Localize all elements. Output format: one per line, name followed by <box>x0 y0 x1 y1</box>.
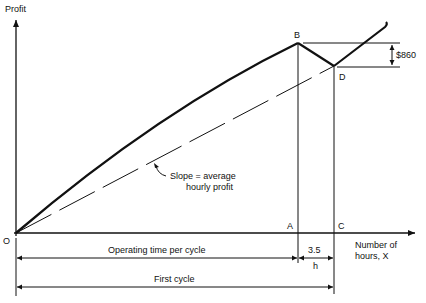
profit-cycle-diagram: Profit Number of hours, X O $860 B D A C… <box>0 0 426 303</box>
slope-leader <box>156 166 166 176</box>
point-A-label: A <box>287 221 293 231</box>
profit-drop-label: $860 <box>396 50 416 60</box>
average-slope-line <box>16 66 334 233</box>
slope-annotation-line1: Slope = average <box>170 171 236 181</box>
x-axis: Number of hours, X O <box>3 233 415 261</box>
x-axis-label-line1: Number of <box>355 240 398 250</box>
slope-annotation-line2: hourly profit <box>186 182 234 192</box>
profit-drop-segment <box>298 43 334 66</box>
y-axis-label: Profit <box>5 4 27 14</box>
operating-time-label: Operating time per cycle <box>108 245 206 255</box>
downtime-unit: h <box>313 261 318 271</box>
point-C-label: C <box>338 221 345 231</box>
next-cycle-curve <box>334 22 387 66</box>
cumulative-profit-curve <box>16 43 298 233</box>
downtime-value: 3.5 <box>308 245 321 255</box>
slope-leader-arrow-icon <box>154 163 159 168</box>
point-B-label: B <box>294 30 300 40</box>
origin-label: O <box>3 236 10 246</box>
first-cycle-label: First cycle <box>154 274 195 284</box>
x-axis-label-line2: hours, X <box>355 251 389 261</box>
point-D-label: D <box>339 72 346 82</box>
y-axis: Profit <box>5 4 27 236</box>
